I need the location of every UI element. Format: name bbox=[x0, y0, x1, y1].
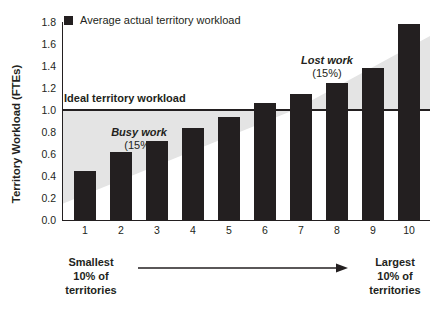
lost-work-percent: (15%) bbox=[272, 67, 382, 80]
axis-direction-annotation: Smallest 10% of territories Largest 10% … bbox=[0, 255, 440, 310]
y-tick-1.0: 1.0 bbox=[26, 105, 56, 116]
y-tick-1.6: 1.6 bbox=[26, 39, 56, 50]
y-tick-0.8: 0.8 bbox=[26, 127, 56, 138]
y-axis-line bbox=[62, 22, 63, 220]
smallest-territories-label: Smallest 10% of territories bbox=[52, 255, 130, 297]
bar-1 bbox=[74, 171, 96, 221]
y-tick-0.4: 0.4 bbox=[26, 171, 56, 182]
bar-9 bbox=[362, 68, 384, 220]
y-tick-0.6: 0.6 bbox=[26, 149, 56, 160]
busy-work-annotation: Busy work (15%) bbox=[84, 126, 194, 152]
ideal-workload-line bbox=[62, 109, 430, 111]
y-axis-title: Territory Workload (FTEs) bbox=[10, 34, 22, 234]
x-tick-9: 9 bbox=[359, 224, 387, 236]
bar-10 bbox=[398, 24, 420, 220]
y-tick-0.2: 0.2 bbox=[26, 193, 56, 204]
bar-7 bbox=[290, 94, 312, 221]
direction-arrow-icon bbox=[138, 263, 350, 273]
x-tick-5: 5 bbox=[215, 224, 243, 236]
y-tick-1.8: 1.8 bbox=[26, 17, 56, 28]
x-tick-1: 1 bbox=[71, 224, 99, 236]
bar-8 bbox=[326, 83, 348, 221]
x-tick-6: 6 bbox=[251, 224, 279, 236]
plot-area: 1.8 1.6 1.4 1.2 1.0 0.8 0.6 0.4 0.2 0.0 … bbox=[62, 22, 430, 220]
y-tick-0.0: 0.0 bbox=[26, 215, 56, 226]
x-tick-7: 7 bbox=[287, 224, 315, 236]
y-tick-1.2: 1.2 bbox=[26, 83, 56, 94]
smallest-line-3: territories bbox=[65, 284, 116, 296]
bar-2 bbox=[110, 152, 132, 220]
largest-line-1: Largest bbox=[375, 256, 415, 268]
x-tick-10: 10 bbox=[395, 224, 423, 236]
y-tick-1.4: 1.4 bbox=[26, 61, 56, 72]
x-tick-8: 8 bbox=[323, 224, 351, 236]
x-tick-2: 2 bbox=[107, 224, 135, 236]
bar-5 bbox=[218, 117, 240, 220]
ideal-workload-label: Ideal territory workload bbox=[64, 92, 186, 104]
territory-workload-chart: Territory Workload (FTEs) Average actual… bbox=[0, 0, 440, 310]
largest-territories-label: Largest 10% of territories bbox=[352, 255, 438, 297]
x-tick-4: 4 bbox=[179, 224, 207, 236]
x-axis-line bbox=[62, 220, 430, 221]
smallest-line-2: 10% of bbox=[73, 270, 108, 282]
bar-6 bbox=[254, 103, 276, 220]
largest-line-3: territories bbox=[369, 284, 420, 296]
busy-work-title: Busy work bbox=[84, 126, 194, 139]
largest-line-2: 10% of bbox=[377, 270, 412, 282]
bar-3 bbox=[146, 141, 168, 220]
busy-work-percent: (15%) bbox=[84, 139, 194, 152]
smallest-line-1: Smallest bbox=[68, 256, 113, 268]
lost-work-annotation: Lost work (15%) bbox=[272, 54, 382, 80]
x-tick-3: 3 bbox=[143, 224, 171, 236]
lost-work-title: Lost work bbox=[272, 54, 382, 67]
